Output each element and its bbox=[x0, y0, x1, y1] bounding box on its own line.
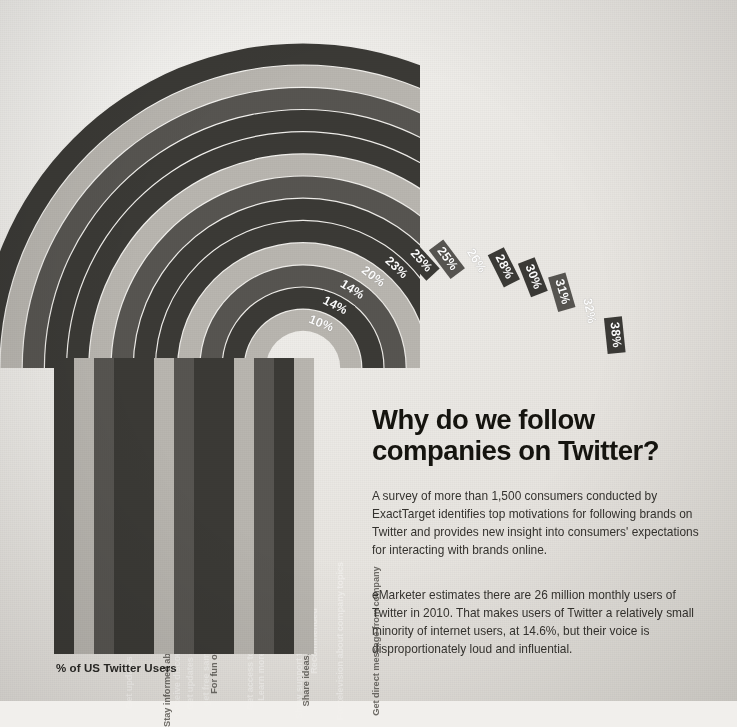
category-bar: Recommended bbox=[274, 358, 294, 654]
category-bar: get free samples, coupons etc bbox=[134, 358, 154, 654]
arc-value-label: 32% bbox=[577, 292, 601, 330]
arc-value-label: 25% bbox=[430, 240, 465, 279]
arc-value-label: 26% bbox=[459, 241, 493, 280]
copy-block: Why do we follow companies on Twitter? A… bbox=[372, 404, 708, 658]
headline-line-1: Why do we follow bbox=[372, 404, 595, 435]
category-bar: Get updates on future products bbox=[54, 358, 74, 654]
arc-value-label: 38% bbox=[605, 317, 626, 354]
category-bar: Stay informed about company activities bbox=[74, 358, 94, 654]
body-paragraph-2: eMarketer estimates there are 26 million… bbox=[372, 586, 708, 658]
category-label-bars: Get updates on future productsStay infor… bbox=[54, 358, 314, 654]
body-paragraph-1: A survey of more than 1,500 consumers co… bbox=[372, 487, 708, 559]
headline-line-2: companies on Twitter? bbox=[372, 435, 708, 466]
category-bar: Get direct message from company bbox=[294, 358, 314, 654]
category-bar: Receive discounts and promotions bbox=[94, 358, 114, 654]
arc-value-label: 31% bbox=[548, 273, 575, 312]
arc-value-label: 30% bbox=[519, 258, 548, 298]
category-bar: Get access to exclusive content bbox=[174, 358, 194, 654]
category-bar: Get updates on upcoming sales bbox=[114, 358, 134, 654]
category-bar: Share ideas, provide feedback bbox=[234, 358, 254, 654]
axis-label: % of US Twitter Users bbox=[56, 662, 177, 674]
category-bar: Show support to company to others bbox=[214, 358, 234, 654]
category-bar-label: For television about company topics bbox=[335, 562, 345, 720]
paragraph-spacer bbox=[372, 576, 708, 586]
category-bar: For television about company topics bbox=[254, 358, 274, 654]
arc-value-label: 28% bbox=[489, 247, 521, 287]
category-bar: For fun or entertainment bbox=[154, 358, 174, 654]
category-bar: Learn more about company bbox=[194, 358, 214, 654]
page-title: Why do we follow companies on Twitter? bbox=[372, 404, 708, 467]
